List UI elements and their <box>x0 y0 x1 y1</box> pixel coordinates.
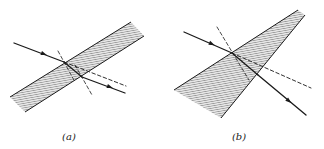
emergent-ray <box>82 77 125 93</box>
medium-surface-1 <box>10 22 131 97</box>
panel-a-parallel-plate <box>10 22 144 112</box>
panel-b-wedge <box>174 10 311 118</box>
panel-a-label: (a) <box>62 131 76 142</box>
arrowhead-icon <box>40 51 46 55</box>
refraction-diagram <box>0 0 324 149</box>
emergent-ray <box>258 75 306 115</box>
arrowhead-icon <box>106 84 112 88</box>
incident-ray <box>184 32 232 53</box>
medium-surface-2 <box>25 36 144 112</box>
arrowhead-icon <box>208 41 214 45</box>
panel-b-label: (b) <box>232 131 246 142</box>
incident-ray <box>14 43 64 62</box>
